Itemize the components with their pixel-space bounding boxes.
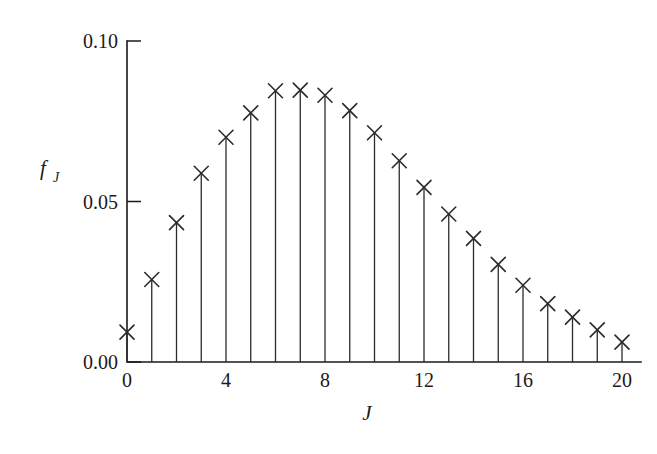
x-axis-tick-labels: 0 4 8 12 16 20 [122, 369, 632, 391]
stem-plot-chart: 0.10 0.05 0.00 0 4 8 12 16 20 J f J [0, 0, 657, 454]
x-tick-label: 20 [612, 369, 632, 391]
x-tick-label: 12 [414, 369, 434, 391]
y-axis-tick-labels: 0.10 0.05 0.00 [83, 30, 118, 373]
x-tick-label: 16 [513, 369, 533, 391]
y-tick-label: 0.10 [83, 30, 118, 52]
stem-series [127, 90, 622, 362]
y-axis-title-subscript: J [53, 170, 60, 185]
y-tick-label: 0.00 [83, 351, 118, 373]
y-tick-label: 0.05 [83, 191, 118, 213]
x-tick-label: 4 [221, 369, 231, 391]
figure-canvas: 0.10 0.05 0.00 0 4 8 12 16 20 J f J [0, 0, 657, 454]
x-tick-label: 8 [320, 369, 330, 391]
x-axis-title: J [362, 401, 373, 425]
chart-axes-spines [127, 41, 641, 362]
y-axis-title-base: f [40, 156, 49, 180]
y-axis-title: f J [40, 156, 60, 185]
x-tick-label: 0 [122, 369, 132, 391]
y-axis-ticks [127, 41, 141, 362]
